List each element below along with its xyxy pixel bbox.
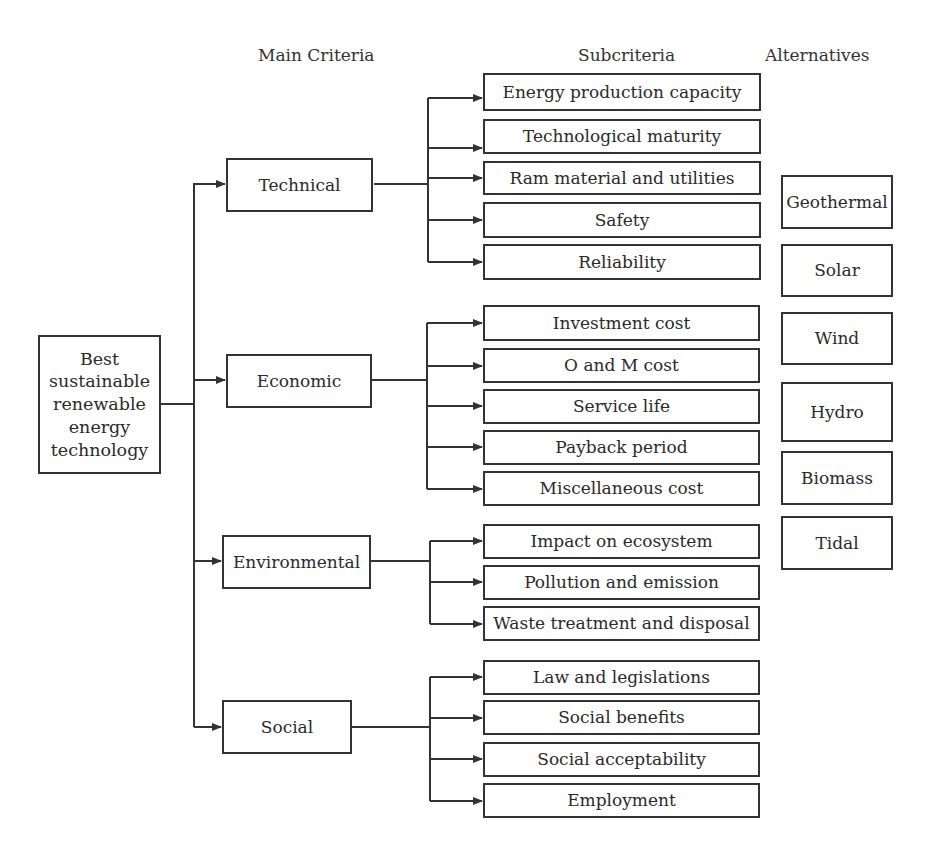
subcriterion-box: Waste treatment and disposal [483, 606, 760, 641]
subcriterion-box: Social benefits [483, 700, 760, 735]
alternative-wind: Wind [781, 312, 893, 365]
alternative-geothermal: Geothermal [781, 175, 893, 229]
goal-line: sustainable [49, 370, 150, 393]
subcriterion-box: Ram material and utilities [483, 161, 761, 195]
subcriterion-box: Technological maturity [483, 119, 761, 154]
subcriterion-box: Miscellaneous cost [483, 471, 760, 506]
alternative-biomass: Biomass [781, 451, 893, 505]
header-main-criteria: Main Criteria [258, 45, 375, 65]
criterion-technical: Technical [226, 158, 373, 212]
header-subcriteria: Subcriteria [578, 45, 675, 65]
criterion-environmental: Environmental [222, 535, 371, 589]
subcriterion-box: Investment cost [483, 305, 760, 341]
subcriterion-box: Pollution and emission [483, 565, 760, 600]
subcriterion-box: Payback period [483, 430, 760, 465]
goal-line: renewable [53, 393, 146, 416]
criterion-economic: Economic [226, 354, 372, 408]
subcriterion-box: Employment [483, 783, 760, 818]
subcriterion-box: Energy production capacity [483, 73, 761, 111]
subcriterion-box: Reliability [483, 244, 761, 280]
goal-box: Best sustainable renewable energy techno… [38, 335, 161, 474]
criterion-social: Social [222, 700, 352, 754]
subcriterion-box: Impact on ecosystem [483, 524, 760, 559]
subcriterion-box: Service life [483, 389, 760, 424]
goal-line: technology [51, 439, 149, 462]
alternative-hydro: Hydro [781, 382, 893, 442]
alternative-tidal: Tidal [781, 516, 893, 570]
alternative-solar: Solar [781, 244, 893, 297]
subcriterion-box: Safety [483, 202, 761, 238]
goal-line: Best [80, 348, 119, 371]
subcriterion-box: Law and legislations [483, 660, 760, 695]
subcriterion-box: O and M cost [483, 348, 760, 383]
header-alternatives: Alternatives [765, 45, 869, 65]
goal-line: energy [69, 416, 130, 439]
subcriterion-box: Social acceptability [483, 742, 760, 777]
